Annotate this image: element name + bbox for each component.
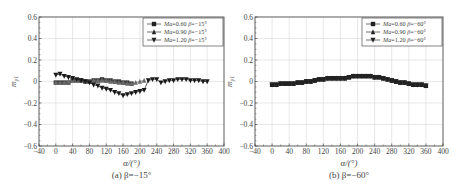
triangle-down-marker bbox=[108, 88, 113, 93]
x-tick-label: 0 bbox=[270, 147, 274, 156]
x-axis-label: α/(°) bbox=[123, 158, 140, 168]
x-tick-label: 360 bbox=[202, 147, 214, 156]
x-tick-label: 360 bbox=[420, 147, 432, 156]
triangle-down-marker bbox=[158, 80, 163, 85]
triangle-down-marker bbox=[116, 91, 121, 96]
y-tick-label: −0.2 bbox=[23, 99, 37, 108]
y-tick-label: 0.4 bbox=[28, 34, 38, 43]
y-tick-label: 0.2 bbox=[28, 56, 38, 65]
y-tick-label: 0.4 bbox=[244, 34, 254, 43]
figure: −4004080120160200240280320360400−0.6−0.4… bbox=[0, 0, 459, 192]
x-tick-label: 240 bbox=[369, 147, 381, 156]
legend: Ma=0.60 β=−60°Ma=0.90 β=−60°Ma=1.20 β=−6… bbox=[362, 18, 442, 46]
x-tick-label: 400 bbox=[218, 147, 230, 156]
x-tick-label: 200 bbox=[134, 147, 146, 156]
y-tick-label: −0.4 bbox=[23, 120, 37, 129]
panel-caption: (b) β=−60° bbox=[329, 170, 369, 180]
x-tick-label: 280 bbox=[168, 147, 180, 156]
x-tick-label: 160 bbox=[117, 147, 129, 156]
x-tick-label: 0 bbox=[54, 147, 58, 156]
y-tick-label: −0.6 bbox=[23, 142, 37, 151]
chart-panel-a: −4004080120160200240280320360400−0.6−0.4… bbox=[9, 13, 230, 181]
y-tick-label: 0 bbox=[249, 77, 253, 86]
x-tick-label: 80 bbox=[86, 147, 94, 156]
y-axis-label: my1 bbox=[225, 76, 235, 87]
triangle-down-marker bbox=[95, 84, 100, 89]
y-tick-label: −0.4 bbox=[239, 120, 253, 129]
x-tick-label: 400 bbox=[437, 147, 449, 156]
legend-label: Ma=1.20 β=−60° bbox=[382, 36, 426, 43]
x-tick-label: 120 bbox=[318, 147, 330, 156]
chart-panel-b: −4004080120160200240280320360400−0.6−0.4… bbox=[225, 13, 449, 181]
triangle-up-marker bbox=[142, 78, 146, 83]
x-tick-label: 40 bbox=[285, 147, 293, 156]
triangle-down-marker bbox=[53, 73, 58, 78]
x-axis: −4004080120160200240280320360400 bbox=[33, 144, 230, 157]
legend-label: Ma=0.90 β=−60° bbox=[382, 28, 426, 35]
x-tick-label: 240 bbox=[151, 147, 163, 156]
x-tick-label: 40 bbox=[69, 147, 77, 156]
legend-label: Ma=0.60 β=−60° bbox=[382, 20, 426, 27]
x-tick-label: 80 bbox=[303, 147, 311, 156]
x-tick-label: 160 bbox=[335, 147, 347, 156]
x-tick-label: 320 bbox=[403, 147, 415, 156]
legend-label: Ma=0.60 β=−15° bbox=[163, 20, 207, 27]
square-marker bbox=[371, 22, 375, 26]
x-tick-label: 120 bbox=[101, 147, 113, 156]
x-tick-label: 320 bbox=[185, 147, 197, 156]
y-tick-label: −0.2 bbox=[239, 99, 253, 108]
x-tick-label: 280 bbox=[386, 147, 398, 156]
y-tick-label: 0.2 bbox=[244, 56, 254, 65]
panel-caption: (a) β=−15° bbox=[112, 170, 152, 180]
y-axis-label: my1 bbox=[9, 76, 19, 87]
x-axis-label: α/(°) bbox=[341, 158, 358, 168]
triangle-down-marker bbox=[146, 78, 151, 83]
x-axis: −4004080120160200240280320360400 bbox=[249, 144, 449, 157]
triangle-down-marker bbox=[121, 93, 126, 98]
square-marker bbox=[152, 22, 156, 26]
y-tick-label: 0 bbox=[33, 77, 37, 86]
legend-label: Ma=1.20 β=−15° bbox=[163, 36, 207, 43]
legend-label: Ma=0.90 β=−15° bbox=[163, 28, 207, 35]
legend: Ma=0.60 β=−15°Ma=0.90 β=−15°Ma=1.20 β=−1… bbox=[143, 18, 223, 46]
y-tick-label: −0.6 bbox=[239, 142, 253, 151]
y-tick-label: 0.6 bbox=[28, 13, 38, 22]
y-tick-label: 0.6 bbox=[244, 13, 254, 22]
x-tick-label: 200 bbox=[352, 147, 364, 156]
